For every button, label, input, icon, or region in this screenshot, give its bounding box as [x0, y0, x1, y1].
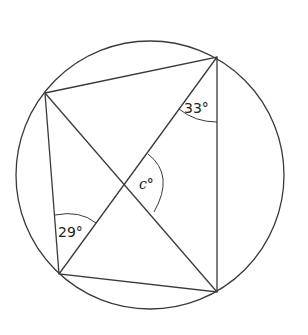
diagonal-bd — [59, 57, 217, 274]
angle-label-c: c° — [139, 176, 154, 192]
geometry-diagram: 33° 29° c° — [0, 0, 308, 335]
angle-arc-29 — [55, 214, 96, 223]
circumcircle — [16, 41, 284, 309]
angle-label-33: 33° — [184, 100, 209, 116]
angle-label-29: 29° — [58, 224, 83, 240]
diagonal-ac — [45, 93, 217, 292]
